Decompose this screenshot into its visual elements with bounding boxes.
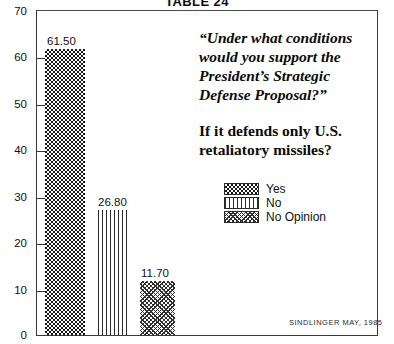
legend-label-no-opinion: No Opinion: [266, 211, 326, 223]
legend-swatch-no-icon: [224, 197, 259, 209]
y-tick-mark-10: [36, 291, 45, 292]
y-tick-label-70: 70: [14, 6, 27, 18]
bar-yes: [45, 49, 85, 335]
legend-swatch-yes-icon: [224, 183, 259, 195]
legend-item-no-opinion: No Opinion: [224, 210, 326, 223]
y-tick-label-40: 40: [14, 146, 27, 158]
y-tick-mark-60: [36, 58, 45, 59]
y-axis: 70 60 50 40 30 20 10 0: [0, 0, 36, 344]
y-tick-label-30: 30: [14, 192, 27, 204]
bar-no-opinion: [140, 281, 175, 336]
chart-title: TABLE 24: [0, 0, 394, 9]
y-tick-mark-30: [36, 198, 45, 199]
question-quote-line-4: Defense Proposal?”: [199, 86, 377, 105]
bar-value-no: 26.80: [98, 197, 127, 209]
y-tick-mark-50: [36, 105, 45, 106]
source-credit: SINDLINGER MAY, 1985: [289, 318, 383, 327]
y-tick-label-10: 10: [14, 285, 27, 297]
question-condition-line-2: retaliatory missiles?: [199, 141, 377, 160]
bar-no: [98, 210, 130, 335]
y-tick-mark-20: [36, 244, 45, 245]
question-quote-line-1: “Under what conditions: [199, 29, 377, 48]
question-quote: “Under what conditions would you support…: [199, 29, 377, 105]
y-tick-label-50: 50: [14, 99, 27, 111]
legend-item-no: No: [224, 196, 326, 209]
legend-label-no: No: [266, 197, 281, 209]
question-quote-line-3: President’s Strategic: [199, 67, 377, 86]
legend-swatch-no-opinion-icon: [224, 211, 259, 223]
y-tick-label-0: 0: [21, 330, 27, 342]
bar-value-no-opinion: 11.70: [141, 268, 169, 280]
legend-item-yes: Yes: [224, 182, 326, 195]
y-tick-mark-40: [36, 151, 45, 152]
chart-figure: TABLE 24 61.50 26.80 11.70 70 60 50 40 3…: [0, 0, 394, 344]
legend: Yes No No Opinion: [224, 182, 326, 224]
y-tick-label-20: 20: [14, 238, 27, 250]
legend-label-yes: Yes: [266, 183, 286, 195]
question-condition-line-1: If it defends only U.S.: [199, 122, 377, 141]
y-tick-label-60: 60: [14, 53, 27, 65]
bar-value-yes: 61.50: [47, 36, 76, 48]
question-condition: If it defends only U.S. retaliatory miss…: [199, 122, 377, 160]
question-quote-line-2: would you support the: [199, 48, 377, 67]
